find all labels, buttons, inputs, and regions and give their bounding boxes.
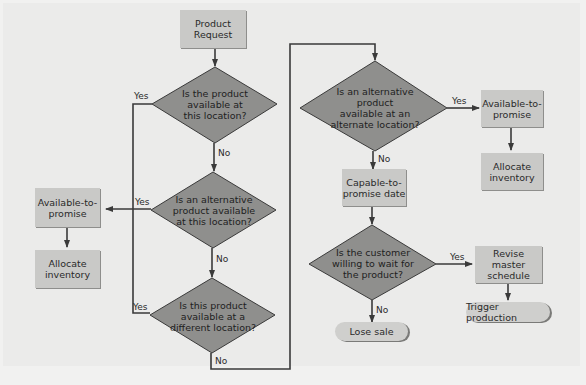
d1-yes-label: Yes (134, 91, 149, 101)
d2-no-label: No (216, 254, 228, 264)
atp-right-box: Available-to- promise (481, 90, 543, 127)
allocate-left-box: Allocate inventory (35, 250, 100, 288)
d4-no-label: No (378, 154, 390, 164)
decision-d2-text: Is an alternative product available at t… (158, 188, 270, 232)
lose-sale-label: Lose sale (349, 326, 393, 337)
decision-d1-text: Is the product available at this locatio… (160, 82, 270, 126)
allocate-right-label: Allocate inventory (489, 161, 534, 183)
d3-no-label: No (215, 356, 227, 366)
decision-d4-text: Is an alternative product available at a… (318, 84, 432, 132)
product-request-label: Product Request (194, 18, 233, 40)
atp-left-box: Available-to- promise (35, 188, 100, 227)
d2-yes-label: Yes (135, 197, 150, 207)
trigger-production-terminal: Trigger production (466, 302, 550, 322)
d1-no-label: No (218, 148, 230, 158)
product-request-box: Product Request (180, 10, 246, 48)
d3-yes-label: Yes (133, 302, 148, 312)
capable-to-promise-box: Capable-to- promise date (342, 169, 406, 206)
revise-master-schedule-box: Revise master schedule (475, 246, 542, 283)
allocate-right-box: Allocate inventory (481, 153, 543, 190)
d5-yes-label: Yes (450, 252, 465, 262)
decision-d5-text: Is the customer willing to wait for the … (318, 243, 428, 283)
d5-no-label: No (376, 305, 388, 315)
atp-right-label: Available-to- promise (482, 98, 542, 120)
d4-yes-label: Yes (452, 96, 467, 106)
capable-to-promise-label: Capable-to- promise date (343, 177, 406, 199)
atp-left-label: Available-to- promise (38, 197, 98, 219)
allocate-left-label: Allocate inventory (45, 258, 90, 280)
flowchart-canvas: Product Request Available-to- promise Al… (0, 0, 586, 385)
decision-d3-text: Is this product available at a different… (157, 294, 269, 338)
revise-master-schedule-label: Revise master schedule (475, 248, 542, 281)
lose-sale-terminal: Lose sale (335, 322, 408, 341)
trigger-production-label: Trigger production (466, 301, 550, 323)
